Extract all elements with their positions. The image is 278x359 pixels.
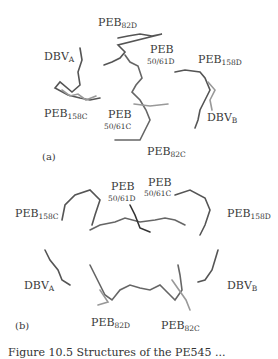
label-peb-158c: PEB158C [44, 108, 88, 123]
label-peb-5061d: PEB [150, 44, 174, 56]
panel-b-tag: (b) [15, 320, 29, 331]
chromophore-structures-b [0, 160, 278, 330]
label-peb-82c: PEB82C [147, 146, 186, 161]
label-peb-5061d-sub: 50/61D [147, 57, 175, 66]
label-peb-158c-b: PEB158C [15, 208, 59, 223]
label-peb-5061c-sub: 50/61C [104, 122, 131, 131]
panel-b: PEB 50/61D PEB 50/61C PEB158C PEB158D DB… [0, 160, 278, 330]
label-peb-158d: PEB158D [198, 54, 242, 69]
label-peb-82d: PEB82D [98, 17, 137, 32]
label-dbv-a-b: DBVA [24, 280, 54, 295]
label-peb-82d-b: PEB82D [91, 317, 130, 332]
label-dbv-b-b: DBVB [227, 280, 257, 295]
label-peb-5061d-b: PEB [111, 181, 135, 193]
label-peb-5061c-b-sub: 50/61C [144, 189, 171, 198]
label-peb-82c-b: PEB82C [161, 320, 200, 335]
label-dbv-b: DBVB [207, 112, 237, 127]
label-peb-5061d-b-sub: 50/61D [108, 194, 136, 203]
label-peb-158d-b: PEB158D [227, 208, 271, 223]
figure-caption: Figure 10.5 Structures of the PE545 ... [8, 346, 226, 359]
panel-a: DBVA PEB82D PEB 50/61D PEB158D PEB158C P… [0, 0, 278, 160]
label-peb-5061c-b: PEB [148, 177, 172, 189]
chromophore-structures-a [0, 0, 278, 160]
label-dbv-a: DBVA [44, 51, 74, 66]
label-peb-5061c: PEB [108, 109, 132, 121]
